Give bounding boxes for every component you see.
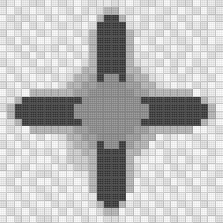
mosaic-tile: [52, 97, 59, 104]
mosaic-tile: [15, 67, 22, 74]
mosaic-tile: [149, 149, 156, 156]
mosaic-tile: [59, 156, 66, 163]
mosaic-tile: [216, 45, 223, 52]
mosaic-tile: [97, 216, 104, 223]
mosaic-tile: [134, 164, 141, 171]
mosaic-tile: [0, 171, 7, 178]
mosaic-tile: [149, 134, 156, 141]
mosaic-tile: [216, 0, 223, 7]
mosaic-tile: [30, 208, 37, 215]
mosaic-tile: [0, 22, 7, 29]
mosaic-tile: [15, 97, 22, 104]
mosaic-tile: [52, 208, 59, 215]
mosaic-tile: [156, 59, 163, 66]
mosaic-tile: [7, 208, 14, 215]
mosaic-tile: [201, 0, 208, 7]
mosaic-tile: [201, 119, 208, 126]
mosaic-tile: [201, 89, 208, 96]
mosaic-tile: [37, 7, 44, 14]
mosaic-tile: [171, 97, 178, 104]
mosaic-tile: [89, 171, 96, 178]
mosaic-tile: [171, 59, 178, 66]
mosaic-tile: [15, 201, 22, 208]
mosaic-tile: [149, 178, 156, 185]
mosaic-tile: [7, 45, 14, 52]
mosaic-tile: [45, 171, 52, 178]
mosaic-tile: [82, 59, 89, 66]
mosaic-tile: [7, 178, 14, 185]
mosaic-tile: [74, 74, 81, 81]
mosaic-tile: [97, 178, 104, 185]
mosaic-tile: [82, 164, 89, 171]
mosaic-tile: [89, 30, 96, 37]
mosaic-tile: [104, 97, 111, 104]
mosaic-tile: [89, 141, 96, 148]
mosaic-tile: [89, 52, 96, 59]
mosaic-tile: [126, 59, 133, 66]
mosaic-tile: [97, 141, 104, 148]
mosaic-tile: [52, 186, 59, 193]
mosaic-tile: [0, 97, 7, 104]
mosaic-tile: [156, 82, 163, 89]
mosaic-tile: [37, 59, 44, 66]
mosaic-tile: [67, 126, 74, 133]
mosaic-tile: [141, 201, 148, 208]
mosaic-tile: [22, 104, 29, 111]
mosaic-tile: [164, 171, 171, 178]
mosaic-tile: [171, 186, 178, 193]
mosaic-tile: [186, 0, 193, 7]
mosaic-tile: [186, 193, 193, 200]
mosaic-tile: [0, 134, 7, 141]
mosaic-tile: [164, 89, 171, 96]
mosaic-tile: [7, 67, 14, 74]
mosaic-tile: [74, 82, 81, 89]
mosaic-tile: [126, 193, 133, 200]
mosaic-tile: [37, 15, 44, 22]
mosaic-tile: [149, 97, 156, 104]
mosaic-tile: [74, 186, 81, 193]
mosaic-tile: [37, 164, 44, 171]
mosaic-tile: [59, 89, 66, 96]
mosaic-tile: [126, 0, 133, 7]
mosaic-tile: [74, 164, 81, 171]
mosaic-tile: [52, 7, 59, 14]
mosaic-tile: [193, 126, 200, 133]
mosaic-tile: [67, 45, 74, 52]
mosaic-tile: [208, 156, 215, 163]
mosaic-tile: [201, 186, 208, 193]
mosaic-tile: [186, 59, 193, 66]
mosaic-tile: [67, 208, 74, 215]
mosaic-tile: [74, 134, 81, 141]
mosaic-tile: [59, 193, 66, 200]
mosaic-tile: [30, 216, 37, 223]
mosaic-tile: [97, 0, 104, 7]
mosaic-tile: [134, 7, 141, 14]
mosaic-tile: [186, 119, 193, 126]
mosaic-tile: [97, 201, 104, 208]
mosaic-tile: [30, 74, 37, 81]
mosaic-tile: [52, 89, 59, 96]
mosaic-tile: [141, 15, 148, 22]
mosaic-tile: [74, 119, 81, 126]
mosaic-tile: [59, 141, 66, 148]
mosaic-tile: [193, 74, 200, 81]
mosaic-tile: [82, 119, 89, 126]
mosaic-tile: [112, 193, 119, 200]
mosaic-tile: [67, 82, 74, 89]
mosaic-tile: [186, 104, 193, 111]
mosaic-tile: [201, 67, 208, 74]
mosaic-tile: [97, 97, 104, 104]
mosaic-tile: [30, 201, 37, 208]
mosaic-tile: [82, 149, 89, 156]
mosaic-tile: [37, 30, 44, 37]
mosaic-tile: [7, 134, 14, 141]
mosaic-tile: [97, 104, 104, 111]
mosaic-tile: [186, 216, 193, 223]
mosaic-tile: [112, 7, 119, 14]
mosaic-tile: [201, 126, 208, 133]
mosaic-tile: [186, 7, 193, 14]
mosaic-tile: [45, 178, 52, 185]
mosaic-tile: [67, 7, 74, 14]
mosaic-tile: [45, 82, 52, 89]
mosaic-tile: [149, 104, 156, 111]
